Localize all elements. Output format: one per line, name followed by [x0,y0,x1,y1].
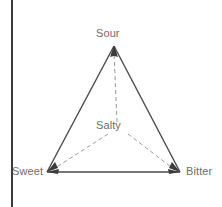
vertex-label-sour: Sour [96,27,120,39]
edge-sour-bitter [114,46,180,172]
spoke-salty-sour [114,52,117,122]
spoke-salty-bitter [128,134,175,170]
arrowhead-group [47,46,180,174]
spoke-group [52,52,175,170]
diagram-canvas: Sour Salty Sweet Bitter [0,0,222,207]
spoke-salty-sweet [52,134,108,170]
edge-sour-sweet [47,46,114,172]
vertex-label-sweet: Sweet [12,165,43,177]
vertex-label-salty: Salty [96,119,121,131]
triangle-edge-group [47,46,180,172]
vertex-label-bitter: Bitter [186,165,212,177]
